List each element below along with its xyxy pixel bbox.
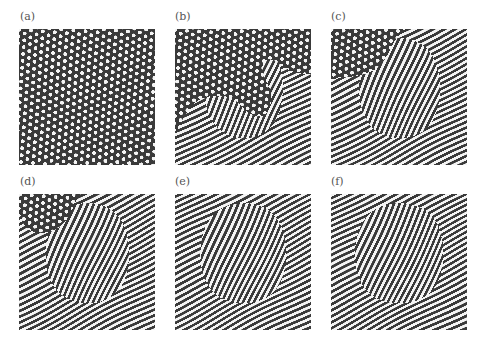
- panel-label-a: (a): [20, 11, 35, 22]
- pattern-canvas: [331, 194, 467, 330]
- panel-d-stripe-pattern: [19, 194, 155, 330]
- pattern-canvas: [19, 29, 155, 165]
- panel-f-stripe-pattern: [331, 194, 467, 330]
- pattern-canvas: [175, 194, 311, 330]
- panel-label-e: (e): [175, 176, 190, 187]
- panel-e-stripe-pattern: [175, 194, 311, 330]
- panel-a-hexagon-pattern: [19, 29, 155, 165]
- panel-b-mixed-pattern: [175, 29, 311, 165]
- panel-label-f: (f): [331, 176, 344, 187]
- panel-label-b: (b): [175, 11, 191, 22]
- pattern-canvas: [175, 29, 311, 165]
- pattern-canvas: [331, 29, 467, 165]
- panel-label-d: (d): [20, 176, 36, 187]
- pattern-canvas: [19, 194, 155, 330]
- panel-c-stripe-pattern: [331, 29, 467, 165]
- panel-label-c: (c): [331, 11, 346, 22]
